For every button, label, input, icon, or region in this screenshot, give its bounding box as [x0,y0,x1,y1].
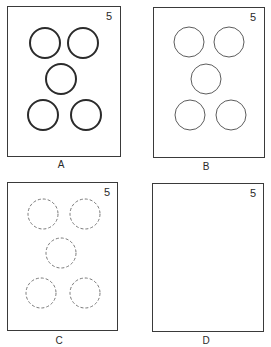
panel-a-circle [68,28,98,58]
panel-b-circle [214,27,244,57]
panel-b-number: 5 [250,11,256,23]
figure: 5 A 5 B 5 C 5 D [0,0,271,347]
panel-a-label: A [58,159,65,170]
panel-c-label: C [55,335,62,346]
panel-d-frame [153,184,264,332]
panel-b-label: B [203,161,210,172]
panel-b-circle [175,100,205,130]
panel-a-circle [28,100,58,130]
panel-b: 5 B [154,8,265,173]
panel-c-circle [70,199,100,229]
panel-c-circle [46,238,76,268]
panel-d-number: 5 [250,187,256,199]
panel-d: 5 D [153,184,264,347]
panel-c-number: 5 [104,186,110,198]
panel-c-circle [28,199,58,229]
panel-a: 5 A [8,7,121,171]
panel-a-circle [30,28,60,58]
panel-b-frame [154,8,265,158]
panel-a-circle [46,64,76,94]
panel-d-label: D [202,335,209,346]
panel-c-frame [8,183,118,331]
panel-c: 5 C [8,183,118,347]
panel-c-circle [26,278,56,308]
panel-c-circle [70,278,100,308]
panel-a-number: 5 [106,10,112,22]
panel-a-frame [8,7,121,157]
panel-a-circle [71,100,101,130]
panel-b-circle [191,64,221,94]
panel-b-circle [174,27,204,57]
panel-b-circle [216,100,246,130]
